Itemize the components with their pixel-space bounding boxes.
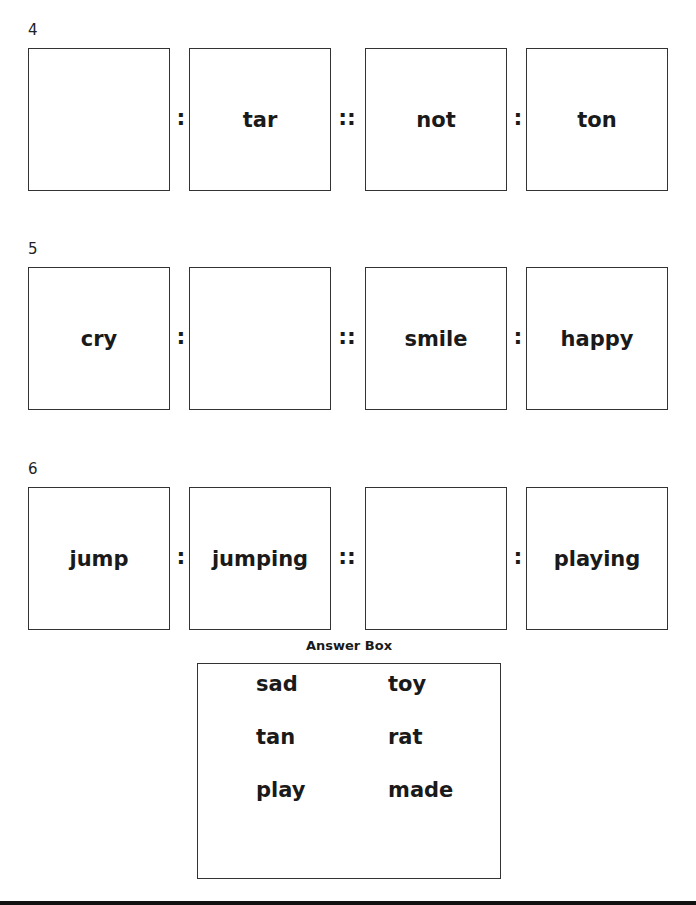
analogy-cell: jump <box>28 487 170 630</box>
ratio-separator: : <box>509 105 527 130</box>
answer-word[interactable]: toy <box>388 672 426 696</box>
answer-box-title: Answer Box <box>197 638 501 653</box>
analogy-cell: not <box>365 48 507 191</box>
proportion-separator: :: <box>338 324 356 349</box>
analogy-cell: jumping <box>189 487 331 630</box>
question-number: 4 <box>28 21 38 39</box>
answer-word[interactable]: play <box>256 778 305 802</box>
analogy-cell: playing <box>526 487 668 630</box>
question-number: 6 <box>28 460 38 478</box>
answer-word[interactable]: sad <box>256 672 298 696</box>
answer-box: sad toy tan rat play made <box>197 663 501 879</box>
question-number: 5 <box>28 240 38 258</box>
answer-word[interactable]: made <box>388 778 453 802</box>
bottom-divider <box>0 901 696 905</box>
answer-word[interactable]: rat <box>388 725 423 749</box>
ratio-separator: : <box>509 324 527 349</box>
proportion-separator: :: <box>338 544 356 569</box>
analogy-cell: tar <box>189 48 331 191</box>
answer-word[interactable]: tan <box>256 725 295 749</box>
analogy-blank-cell[interactable] <box>28 48 170 191</box>
analogy-cell: happy <box>526 267 668 410</box>
analogy-cell: cry <box>28 267 170 410</box>
analogy-blank-cell[interactable] <box>189 267 331 410</box>
analogy-cell: ton <box>526 48 668 191</box>
ratio-separator: : <box>509 544 527 569</box>
analogy-blank-cell[interactable] <box>365 487 507 630</box>
ratio-separator: : <box>172 105 190 130</box>
proportion-separator: :: <box>338 105 356 130</box>
ratio-separator: : <box>172 324 190 349</box>
ratio-separator: : <box>172 544 190 569</box>
analogy-cell: smile <box>365 267 507 410</box>
